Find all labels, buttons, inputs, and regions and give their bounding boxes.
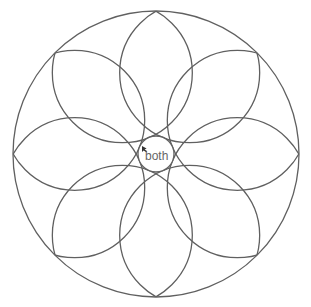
petal-circle	[52, 3, 192, 143]
petal-circle	[5, 50, 145, 190]
petal-circle	[52, 165, 192, 305]
petal-circle	[167, 50, 307, 190]
center-label: both	[145, 149, 168, 163]
petal-circle	[120, 165, 260, 305]
rosette-diagram: both	[0, 0, 311, 307]
petal-circle	[120, 3, 260, 143]
petal-circle	[5, 118, 145, 258]
petal-circle	[167, 118, 307, 258]
